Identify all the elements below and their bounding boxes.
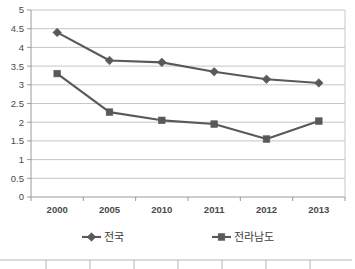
y-axis-tick-label: 1.5 [11,135,24,146]
square-marker-icon [159,117,166,124]
diamond-marker-icon [158,58,167,67]
y-axis-tick-label: 3 [19,79,24,90]
bottom-table-rule [0,260,352,269]
square-marker-icon [316,118,323,125]
square-marker-icon [263,136,270,143]
series-line [57,32,319,82]
data-series [53,28,323,87]
line-chart: 54.543.532.521.510.50 200020052010201120… [0,0,355,269]
legend-item[interactable]: 전라남도 [212,231,274,244]
x-axis-tick-labels: 200020052010201120122013 [47,204,330,215]
y-axis-tick-label: 0.5 [11,173,24,184]
legend-item-label: 전라남도 [234,231,274,244]
y-axis-tick-label: 2 [19,117,24,128]
gridlines [31,10,345,178]
x-axis-tick-label: 2010 [151,204,172,215]
square-marker-icon [54,70,61,77]
diamond-marker-icon [53,28,62,37]
legend: 전국전라남도 [82,231,274,244]
x-axis-tick-label: 2011 [204,204,225,215]
diamond-marker-icon [105,56,114,65]
series-line [57,74,319,139]
square-marker-icon [106,109,113,116]
diamond-marker-icon [87,233,96,242]
diamond-marker-icon [210,67,219,76]
square-marker-icon [211,121,218,128]
diamond-marker-icon [262,75,271,84]
x-axis-tick-label: 2005 [99,204,121,215]
legend-item[interactable]: 전국 [82,231,124,244]
y-axis-tick-label: 4.5 [11,23,24,34]
legend-item-label: 전국 [104,231,124,244]
y-axis [27,10,31,197]
square-marker-icon [218,234,225,241]
y-axis-tick-label: 2.5 [11,98,24,109]
y-axis-tick-label: 4 [19,42,24,53]
y-axis-tick-label: 5 [19,4,24,15]
chart-canvas: 54.543.532.521.510.50 200020052010201120… [0,0,355,269]
y-axis-tick-label: 3.5 [11,61,24,72]
x-axis-tick-label: 2013 [308,204,329,215]
diamond-marker-icon [315,79,324,88]
x-axis-tick-label: 2000 [47,204,68,215]
x-axis [31,197,345,201]
x-axis-tick-label: 2012 [256,204,277,215]
y-axis-tick-label: 1 [19,154,24,165]
y-axis-tick-labels: 54.543.532.521.510.50 [11,4,24,202]
y-axis-tick-label: 0 [19,191,24,202]
